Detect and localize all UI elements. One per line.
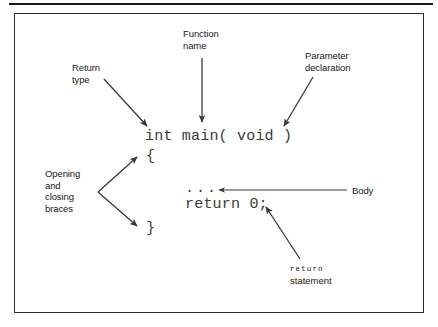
top-horizontal-rule [9,3,433,5]
callout-parameter-declaration: Parameter declaration [305,50,350,73]
code-close-brace: } [146,220,155,237]
code-function-signature: int main( void ) [145,128,292,145]
code-return-line: return 0; [185,196,268,213]
callout-return-keyword: return [290,265,332,275]
callout-return-statement: return statement [290,265,332,286]
figure-page: Return type Function name Parameter decl… [0,0,438,327]
code-open-brace: { [146,148,155,165]
callout-braces: Opening and closing braces [45,168,80,214]
callout-function-name: Function name [183,28,219,51]
callout-statement-word: statement [290,275,332,286]
callout-return-type: Return type [72,62,100,85]
callout-body: Body [352,185,373,197]
code-ellipsis: ... [185,180,218,197]
figure-border-box [14,13,424,313]
